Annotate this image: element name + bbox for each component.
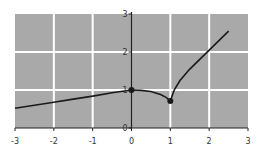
point-marker (167, 98, 173, 104)
x-tick-label: -3 (11, 137, 19, 146)
x-tick-label: 0 (129, 137, 134, 146)
y-tick-label: 3 (122, 10, 127, 19)
x-tick-label: 3 (245, 137, 250, 146)
chart: -3-2-10123 0123 (0, 0, 260, 156)
point-marker (129, 87, 135, 93)
y-tick-label: 2 (122, 48, 127, 57)
y-tick-label: 0 (122, 124, 127, 133)
x-tick-label: 2 (207, 137, 212, 146)
x-axis-tick-labels: -3-2-10123 (11, 137, 251, 146)
y-tick-label: 1 (122, 86, 127, 95)
x-tick-label: -2 (50, 137, 58, 146)
x-tick-label: 1 (168, 137, 173, 146)
x-tick-label: -1 (89, 137, 97, 146)
